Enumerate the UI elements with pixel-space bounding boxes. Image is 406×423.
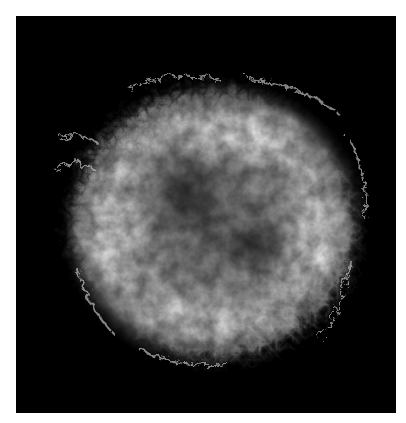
astronomy-image: [16, 16, 396, 413]
supernova-remnant: [16, 16, 396, 413]
